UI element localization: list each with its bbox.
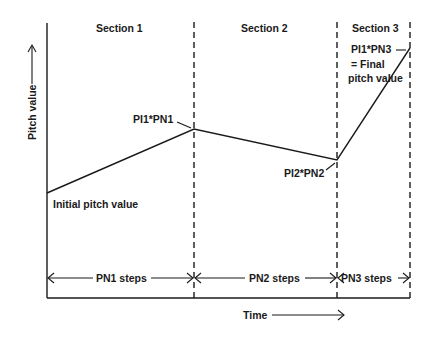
span-pn3-label: PN3 steps xyxy=(341,272,392,284)
section-1-label: Section 1 xyxy=(96,22,143,34)
section-2-label: Section 2 xyxy=(241,22,288,34)
span-pn2: PN2 steps xyxy=(195,272,336,284)
span-pn2-label: PN2 steps xyxy=(249,272,300,284)
point-1-leader xyxy=(177,122,191,128)
span-pn1: PN1 steps xyxy=(48,272,193,284)
pitch-envelope-diagram: Section 1 Section 2 Section 3 Pitch valu… xyxy=(0,0,435,338)
point-2-label: PI2*PN2 xyxy=(284,167,324,179)
span-pn3: PN3 steps xyxy=(338,272,409,284)
section-3-label: Section 3 xyxy=(352,22,399,34)
span-pn1-label: PN1 steps xyxy=(96,272,147,284)
x-axis-label: Time xyxy=(243,309,267,321)
y-axis-label: Pitch value xyxy=(26,84,38,140)
y-axis-label-group: Pitch value xyxy=(26,45,38,140)
point-1-label: PI1*PN1 xyxy=(133,113,173,125)
point-3-label-line-1: PI1*PN3 xyxy=(351,43,391,55)
initial-pitch-label: Initial pitch value xyxy=(53,198,138,210)
point-2-leader xyxy=(326,163,335,170)
point-3-label-line-2: = Final xyxy=(351,58,385,70)
point-3-label-line-3: pitch value xyxy=(348,72,403,84)
